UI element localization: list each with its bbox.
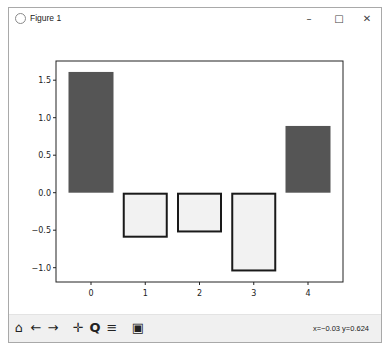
back-button[interactable]: ← xyxy=(28,320,44,336)
sliders-icon: ≡ xyxy=(107,320,118,335)
x-tick-label: 2 xyxy=(197,289,202,298)
forward-button[interactable]: → xyxy=(45,320,61,336)
y-tick-label: −0.5 xyxy=(32,226,51,235)
y-tick-label: −1.0 xyxy=(32,264,51,273)
minimize-button[interactable]: – xyxy=(299,11,319,27)
x-tick-label: 1 xyxy=(143,289,148,298)
figure-app-icon xyxy=(15,13,26,24)
y-tick-label: 1.5 xyxy=(38,76,51,85)
configure-subplots-button[interactable]: ≡ xyxy=(104,320,120,336)
bar-chart: 1.51.00.50.0−0.5−1.001234 xyxy=(9,31,381,317)
x-tick-label: 3 xyxy=(251,289,256,298)
home-icon: ⌂ xyxy=(15,320,23,335)
zoom-button[interactable]: Q xyxy=(87,320,103,336)
bar-0 xyxy=(69,72,114,193)
magnifier-icon: Q xyxy=(89,320,100,335)
bar-3 xyxy=(232,194,275,271)
navigation-toolbar: ⌂ ← → ✛ Q ≡ ▣ x=−0.03 y=0.624 xyxy=(9,314,381,342)
x-tick-label: 0 xyxy=(88,289,93,298)
bar-2 xyxy=(178,194,221,232)
arrow-left-icon: ← xyxy=(31,320,42,335)
y-tick-label: 0.5 xyxy=(38,151,51,160)
bar-1 xyxy=(124,194,167,237)
move-icon: ✛ xyxy=(73,320,84,335)
y-tick-label: 0.0 xyxy=(38,189,51,198)
plot-canvas[interactable]: 1.51.00.50.0−0.5−1.001234 xyxy=(9,31,381,317)
title-bar[interactable]: Figure 1 – □ ✕ xyxy=(9,8,381,31)
x-tick-label: 4 xyxy=(305,289,310,298)
bar-4 xyxy=(286,126,331,193)
pan-button[interactable]: ✛ xyxy=(70,320,86,336)
y-tick-label: 1.0 xyxy=(38,114,51,123)
figure-window: Figure 1 – □ ✕ 1.51.00.50.0−0.5−1.001234… xyxy=(8,7,382,343)
home-button[interactable]: ⌂ xyxy=(11,320,27,336)
cursor-coordinates: x=−0.03 y=0.624 xyxy=(313,324,369,333)
maximize-button[interactable]: □ xyxy=(329,11,349,27)
floppy-disk-icon: ▣ xyxy=(132,320,144,335)
window-title: Figure 1 xyxy=(30,13,61,23)
save-button[interactable]: ▣ xyxy=(130,320,146,336)
close-button[interactable]: ✕ xyxy=(357,11,377,27)
arrow-right-icon: → xyxy=(48,320,59,335)
